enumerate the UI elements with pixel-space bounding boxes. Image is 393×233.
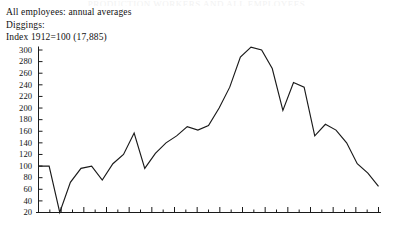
y-tick-label: 280	[2, 57, 32, 66]
y-tick-label: 180	[2, 115, 32, 124]
y-tick-label: 80	[2, 173, 32, 182]
y-tick-label: 20	[2, 208, 32, 217]
y-tick-label: 220	[2, 92, 32, 101]
y-tick-label: 120	[2, 150, 32, 159]
y-tick-label: 60	[2, 185, 32, 194]
y-tick-label: 300	[2, 46, 32, 55]
y-tick-label: 40	[2, 197, 32, 206]
x-axis	[36, 207, 381, 213]
y-tick-label: 100	[2, 162, 32, 171]
y-axis	[39, 47, 43, 213]
chart-page: PRODUCTION WORKERS AND ALL EMPLOYEES All…	[0, 0, 393, 233]
data-line-diggings	[39, 47, 379, 212]
y-tick-label: 260	[2, 69, 32, 78]
y-tick-label: 160	[2, 127, 32, 136]
y-tick-label: 200	[2, 104, 32, 113]
chart-svg	[0, 0, 393, 233]
y-tick-label: 140	[2, 139, 32, 148]
y-tick-label: 240	[2, 81, 32, 90]
line-chart: 2040608010012014016018020022024026028030…	[0, 0, 393, 233]
